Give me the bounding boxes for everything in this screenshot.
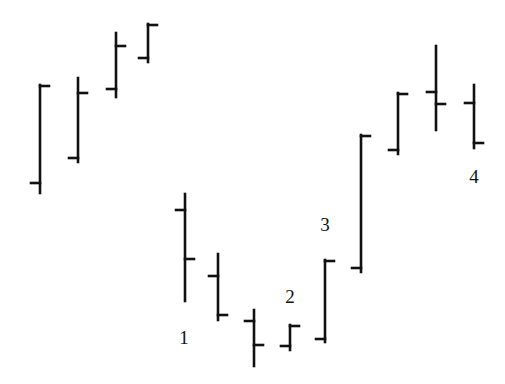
ohlc-bar	[352, 135, 370, 272]
ohlc-bar	[316, 260, 334, 342]
ohlc-bar	[139, 24, 157, 62]
ohlc-bar	[209, 254, 227, 320]
ohlc-bar	[69, 78, 87, 162]
annotation-3: 3	[320, 215, 330, 234]
ohlc-bar	[107, 33, 125, 97]
ohlc-bar	[427, 46, 445, 130]
ohlc-bar	[31, 85, 49, 193]
ohlc-chart	[0, 0, 505, 384]
ohlc-bar	[465, 85, 483, 148]
annotation-1: 1	[179, 328, 189, 347]
ohlc-bar	[245, 310, 263, 366]
annotation-4: 4	[469, 167, 479, 186]
ohlc-bar	[176, 194, 194, 301]
ohlc-bar	[281, 325, 299, 350]
ohlc-bar	[389, 93, 407, 154]
annotation-2: 2	[285, 287, 295, 306]
